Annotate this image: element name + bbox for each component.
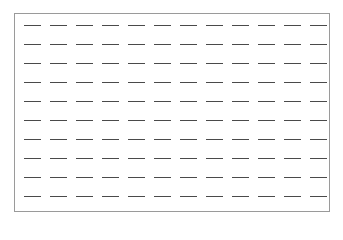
dash-mark (50, 63, 67, 64)
dash-mark (102, 101, 119, 102)
dash-mark (154, 25, 171, 26)
dash-mark (128, 196, 145, 197)
dash-mark (206, 196, 223, 197)
dash-mark (310, 101, 327, 102)
dash-mark (258, 177, 275, 178)
dash-mark (310, 44, 327, 45)
dash-mark (102, 82, 119, 83)
dash-mark (128, 158, 145, 159)
dash-mark (24, 158, 41, 159)
dash-mark (24, 177, 41, 178)
dash-mark (232, 25, 249, 26)
dash-mark (310, 158, 327, 159)
dash-mark (102, 158, 119, 159)
dash-mark (232, 177, 249, 178)
dash-mark (102, 177, 119, 178)
dash-mark (284, 177, 301, 178)
dash-mark (310, 63, 327, 64)
dash-mark (232, 63, 249, 64)
dash-mark (76, 139, 93, 140)
dash-mark (76, 177, 93, 178)
dash-mark (24, 44, 41, 45)
dash-mark (284, 44, 301, 45)
dash-mark (258, 196, 275, 197)
dash-mark (284, 139, 301, 140)
dash-mark (310, 120, 327, 121)
dash-mark (206, 139, 223, 140)
dash-mark (102, 25, 119, 26)
dash-mark (128, 44, 145, 45)
dash-mark (284, 196, 301, 197)
dash-mark (154, 82, 171, 83)
dash-mark (206, 82, 223, 83)
dash-mark (180, 139, 197, 140)
dash-mark (154, 120, 171, 121)
dash-mark (284, 63, 301, 64)
dash-grid (24, 25, 336, 215)
dash-mark (258, 44, 275, 45)
dash-mark (128, 120, 145, 121)
dash-mark (50, 139, 67, 140)
dash-mark (232, 196, 249, 197)
dash-mark (102, 139, 119, 140)
dash-mark (76, 196, 93, 197)
dash-mark (258, 139, 275, 140)
dash-mark (258, 63, 275, 64)
dash-mark (76, 158, 93, 159)
dash-mark (128, 63, 145, 64)
dash-mark (24, 196, 41, 197)
dash-mark (180, 120, 197, 121)
dash-mark (206, 44, 223, 45)
dash-mark (180, 82, 197, 83)
dash-mark (128, 25, 145, 26)
dash-mark (310, 82, 327, 83)
dash-mark (284, 25, 301, 26)
dash-mark (206, 120, 223, 121)
dash-mark (310, 177, 327, 178)
dash-mark (24, 82, 41, 83)
dash-mark (206, 158, 223, 159)
dash-mark (76, 82, 93, 83)
dash-mark (206, 101, 223, 102)
dash-mark (24, 120, 41, 121)
dash-mark (50, 158, 67, 159)
dash-mark (24, 63, 41, 64)
dash-mark (128, 82, 145, 83)
dash-mark (76, 44, 93, 45)
dash-mark (154, 44, 171, 45)
dash-mark (50, 120, 67, 121)
dash-mark (24, 101, 41, 102)
dash-mark (180, 44, 197, 45)
dash-mark (76, 25, 93, 26)
dash-mark (232, 44, 249, 45)
dash-mark (310, 196, 327, 197)
dash-mark (284, 120, 301, 121)
dash-mark (232, 101, 249, 102)
dash-mark (232, 120, 249, 121)
dash-mark (258, 120, 275, 121)
dash-mark (128, 101, 145, 102)
dash-mark (154, 196, 171, 197)
dash-mark (50, 82, 67, 83)
dash-mark (232, 158, 249, 159)
dash-mark (102, 44, 119, 45)
dash-mark (76, 120, 93, 121)
dash-mark (50, 101, 67, 102)
dash-mark (284, 158, 301, 159)
dash-mark (180, 196, 197, 197)
dash-mark (50, 44, 67, 45)
dash-mark (310, 25, 327, 26)
dash-mark (232, 139, 249, 140)
dash-mark (258, 82, 275, 83)
dash-mark (206, 25, 223, 26)
dash-mark (24, 25, 41, 26)
dash-mark (232, 82, 249, 83)
dash-mark (258, 25, 275, 26)
dash-mark (154, 158, 171, 159)
dash-mark (258, 101, 275, 102)
dash-mark (180, 101, 197, 102)
dash-mark (128, 177, 145, 178)
dash-mark (284, 82, 301, 83)
dash-mark (206, 63, 223, 64)
dash-mark (102, 63, 119, 64)
